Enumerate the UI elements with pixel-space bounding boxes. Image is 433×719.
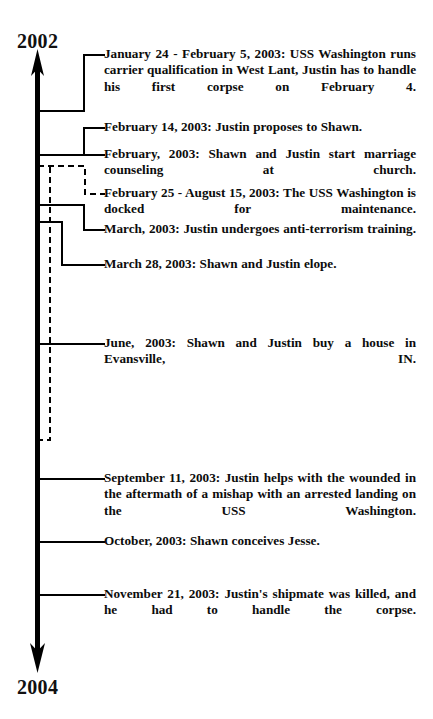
- timeline-end-year-label: 2004: [17, 676, 58, 699]
- event-label-jun-2003: June, 2003: Shawn and Justin buy a house…: [104, 335, 416, 384]
- event-label-jan24-feb5-2003: January 24 - February 5, 2003: USS Washi…: [104, 46, 416, 111]
- event-label-nov21-2003: November 21, 2003: Justin's shipmate was…: [104, 586, 416, 635]
- connector-jan24-feb5-2003: [38, 55, 105, 111]
- timeline-diagram: 2002 2004 January 24 - February 5, 2003:…: [0, 0, 433, 719]
- connector-mar-2003: [38, 205, 105, 230]
- event-label-feb14-2003: February 14, 2003: Justin proposes to Sh…: [104, 119, 416, 135]
- connector-feb14-2003: [38, 128, 105, 155]
- connector-mar28-2003: [38, 222, 105, 265]
- event-label-mar-2003: March, 2003: Justin undergoes anti-terro…: [104, 221, 416, 254]
- connector-feb25-aug15-2003: [38, 166, 105, 194]
- event-label-sep11-2003: September 11, 2003: Justin helps with th…: [104, 470, 416, 535]
- event-label-mar28-2003: March 28, 2003: Shawn and Justin elope.: [104, 256, 416, 272]
- event-label-oct-2003: October, 2003: Shawn conceives Jesse.: [104, 533, 416, 549]
- timeline-start-year-label: 2002: [17, 30, 58, 53]
